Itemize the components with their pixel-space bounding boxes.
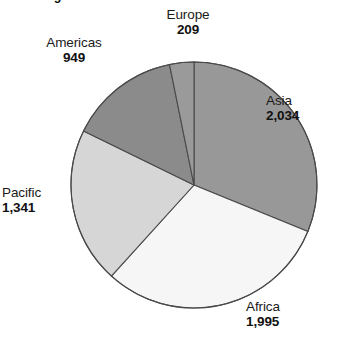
pie-label-africa: Africa 1,995 xyxy=(246,300,326,329)
pie-label-americas-name: Americas xyxy=(22,36,126,51)
pie-chart-figure: in the regions shown. Europe 209 America… xyxy=(0,0,345,339)
pie-label-asia: Asia 2,034 xyxy=(266,94,342,123)
pie-label-americas-value: 949 xyxy=(22,51,126,66)
pie-label-americas: Americas 949 xyxy=(22,36,126,65)
pie-label-europe: Europe 209 xyxy=(146,8,230,37)
pie-label-asia-name: Asia xyxy=(266,94,342,109)
pie-label-pacific-value: 1,341 xyxy=(2,201,78,216)
pie-label-pacific-name: Pacific xyxy=(2,186,78,201)
pie-label-europe-value: 209 xyxy=(146,23,230,38)
pie-label-africa-value: 1,995 xyxy=(246,315,326,330)
pie-label-europe-name: Europe xyxy=(146,8,230,23)
pie-label-africa-name: Africa xyxy=(246,300,326,315)
pie-label-pacific: Pacific 1,341 xyxy=(2,186,78,215)
pie-label-asia-value: 2,034 xyxy=(266,109,342,124)
